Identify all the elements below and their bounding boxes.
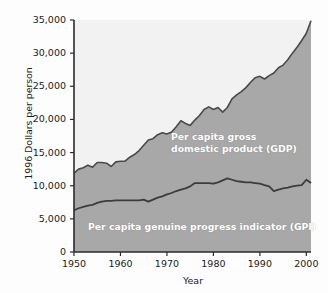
chart-figure: 1996 Dollars per person 35,00030,00025,0… <box>0 0 328 293</box>
series-label-gdp: Per capita gross domestic product (GDP) <box>171 131 297 154</box>
series-label-gpi: Per capita genuine progress indicator (G… <box>88 221 316 233</box>
x-axis-title: Year <box>74 275 312 286</box>
